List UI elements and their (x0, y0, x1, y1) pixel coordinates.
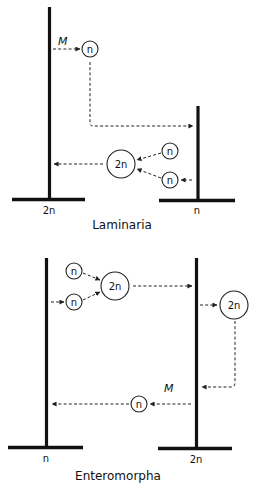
arrow-spore-to-gametophyte (90, 62, 193, 126)
spore-label: n (136, 399, 142, 410)
arrow-gamete-to-zygote (83, 292, 100, 300)
arrow-cell-to-sporophyte (202, 321, 235, 387)
gametophyte-ploidy-label: n (194, 205, 200, 216)
sporophyte-ploidy-label: 2n (190, 454, 203, 465)
arrow-gamete-to-zygote (83, 273, 100, 280)
diploid-cell-label: 2n (228, 300, 241, 311)
gametophyte-ploidy-label: n (43, 453, 49, 464)
meiosis-label: M (164, 382, 174, 395)
laminaria-diagram: 2n n M n n n 2n Laminaria (12, 7, 235, 232)
organism-title: Laminaria (92, 218, 152, 232)
arrow-gamete-to-zygote (137, 153, 161, 160)
zygote-label: 2n (109, 281, 122, 292)
gamete-label: n (71, 297, 77, 308)
gamete-label: n (167, 146, 173, 157)
enteromorpha-diagram: n 2n n n 2n 2n M n Enteromorpha (8, 258, 248, 483)
gamete-label: n (71, 266, 77, 277)
organism-title: Enteromorpha (75, 469, 161, 483)
sporophyte-ploidy-label: 2n (43, 205, 56, 216)
life-cycle-diagram: 2n n M n n n 2n Laminaria n (0, 0, 257, 488)
gamete-label: n (167, 175, 173, 186)
meiosis-label: M (58, 35, 68, 48)
spore-label: n (87, 44, 93, 55)
arrow-gamete-to-zygote (137, 169, 161, 178)
zygote-label: 2n (115, 159, 128, 170)
